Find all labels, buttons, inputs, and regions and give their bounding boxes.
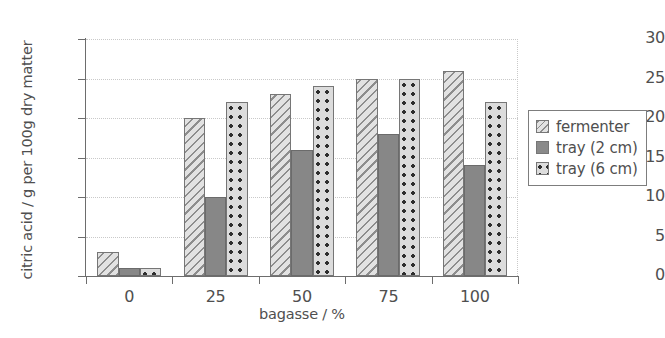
x-tick-label-50: 50 [262, 287, 342, 306]
y-tick-label-30: 30 [591, 28, 665, 47]
y-tick-30 [78, 39, 85, 40]
x-axis-title: bagasse / % [85, 306, 519, 322]
x-tick-5 [518, 276, 519, 284]
bar-chart-figure: citric acid / g per 100g dry matter baga… [0, 0, 665, 338]
bar-tray6-25 [226, 102, 247, 276]
legend-item-tray2[interactable]: tray (2 cm) [536, 137, 638, 158]
bar-tray6-50 [313, 86, 334, 276]
bar-fermenter-75 [356, 79, 377, 277]
bar-tray2-100 [464, 165, 485, 276]
legend-item-tray6[interactable]: tray (6 cm) [536, 158, 638, 179]
x-tick-0 [86, 276, 87, 284]
legend-swatch-tray2-icon [536, 141, 549, 154]
x-tick-4 [432, 276, 433, 284]
y-tick-0 [78, 276, 85, 277]
plot-right-border [517, 39, 518, 276]
x-tick-label-75: 75 [348, 287, 428, 306]
bar-tray2-50 [291, 150, 312, 276]
x-tick-label-0: 0 [89, 287, 169, 306]
y-tick-15 [78, 158, 85, 159]
bar-fermenter-25 [184, 118, 205, 276]
legend-label-tray2: tray (2 cm) [556, 139, 638, 157]
x-axis-spine [85, 276, 519, 277]
x-tick-3 [345, 276, 346, 284]
legend-swatch-fermenter-icon [536, 120, 549, 133]
y-tick-25 [78, 79, 85, 80]
x-tick-1 [172, 276, 173, 284]
bar-tray2-25 [205, 197, 226, 276]
bar-fermenter-0 [97, 252, 118, 276]
x-tick-label-100: 100 [435, 287, 515, 306]
bar-tray6-100 [485, 102, 506, 276]
y-tick-5 [78, 237, 85, 238]
x-tick-2 [259, 276, 260, 284]
x-tick-label-25: 25 [176, 287, 256, 306]
gridline-30 [86, 39, 518, 40]
y-tick-label-25: 25 [591, 68, 665, 87]
y-tick-label-0: 0 [591, 265, 665, 284]
bar-tray2-75 [378, 134, 399, 276]
bar-tray2-0 [119, 268, 140, 276]
chart-legend: fermentertray (2 cm)tray (6 cm) [528, 110, 647, 186]
bar-tray6-0 [140, 268, 161, 276]
y-tick-20 [78, 118, 85, 119]
legend-swatch-tray6-icon [536, 162, 549, 175]
y-axis-title: citric acid / g per 100g dry matter [14, 10, 40, 310]
bar-fermenter-100 [443, 71, 464, 276]
plot-area [86, 39, 518, 276]
legend-label-tray6: tray (6 cm) [556, 160, 638, 178]
y-axis-spine [85, 38, 86, 277]
bar-fermenter-50 [270, 94, 291, 276]
legend-item-fermenter[interactable]: fermenter [536, 116, 638, 137]
y-tick-label-10: 10 [591, 186, 665, 205]
bar-tray6-75 [399, 79, 420, 277]
y-tick-10 [78, 197, 85, 198]
y-tick-label-5: 5 [591, 226, 665, 245]
legend-label-fermenter: fermenter [556, 118, 629, 136]
